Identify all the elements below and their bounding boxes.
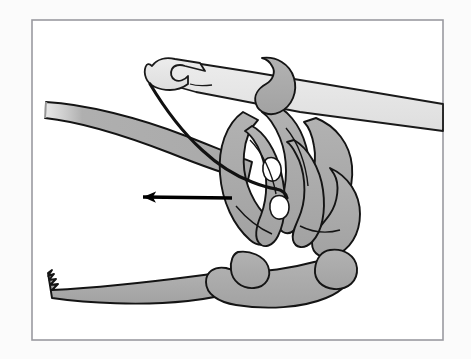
figure-canvas — [0, 0, 471, 359]
direction-arrow-line — [143, 197, 232, 198]
knot-lower-right-wrap — [315, 250, 357, 289]
direction-arrow — [143, 197, 232, 198]
upper-yarn-fade-end — [45, 102, 46, 118]
figure-root: Crochet stitch instruction diagram Grays… — [0, 0, 471, 359]
